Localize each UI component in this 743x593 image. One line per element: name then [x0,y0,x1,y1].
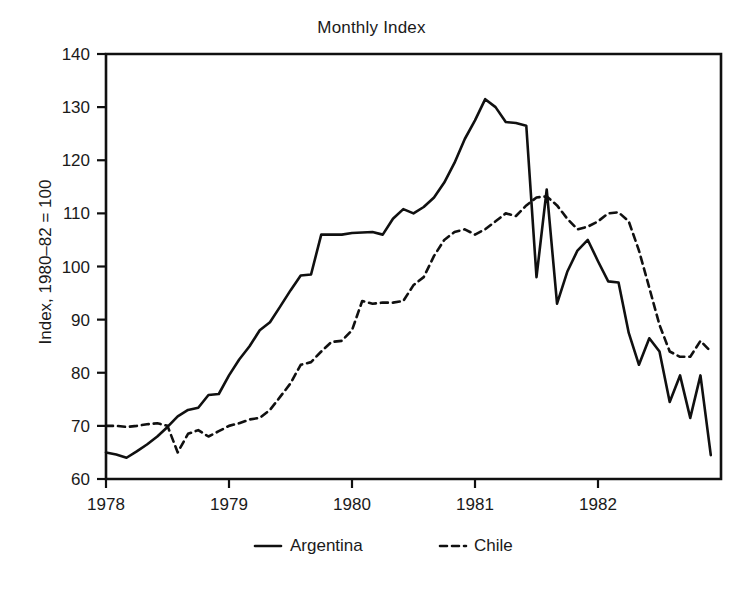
x-axis-ticks: 19781979198019811982 [87,479,617,514]
chart-legend: ArgentinaChile [255,536,513,555]
y-tick-label: 70 [71,417,90,436]
plot-border [106,54,721,479]
x-tick-label: 1978 [87,495,125,514]
series-line-argentina [106,99,711,458]
x-tick-label: 1982 [579,495,617,514]
y-tick-label: 80 [71,364,90,383]
chart-figure: Monthly Index Index, 1980–82 = 100 60708… [0,0,743,593]
y-tick-label: 60 [71,470,90,489]
y-tick-label: 90 [71,311,90,330]
plot-area: 60708090100110120130140 1978197919801981… [0,0,743,593]
y-tick-label: 130 [62,98,90,117]
x-tick-label: 1979 [210,495,248,514]
y-tick-label: 120 [62,151,90,170]
x-tick-label: 1980 [333,495,371,514]
x-tick-label: 1981 [456,495,494,514]
axis-frame [106,54,721,479]
series-line-chile [106,196,711,452]
data-series-group [106,99,711,458]
legend-label-chile: Chile [474,536,513,555]
legend-label-argentina: Argentina [290,536,363,555]
y-axis-ticks: 60708090100110120130140 [62,45,106,489]
y-tick-label: 140 [62,45,90,64]
y-tick-label: 110 [63,204,90,223]
y-tick-label: 100 [62,258,90,277]
